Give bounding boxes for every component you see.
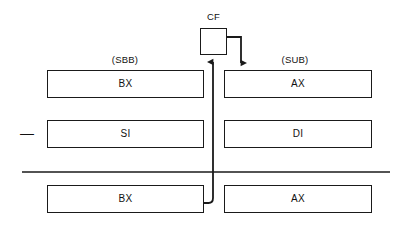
register-box-ax-high: AX (224, 70, 372, 98)
carry-flag-title: CF (200, 12, 227, 22)
register-label: SI (120, 129, 130, 139)
carry-flag-box (200, 28, 227, 55)
register-label: BX (119, 194, 133, 204)
register-box-si: SI (47, 120, 204, 148)
register-box-di: DI (224, 120, 372, 148)
operation-label-sbb: (SBB) (100, 55, 150, 65)
register-box-ax-result: AX (224, 185, 372, 213)
operation-label-sub: (SUB) (270, 55, 320, 65)
register-label: AX (291, 194, 305, 204)
register-label: AX (291, 79, 305, 89)
borrow-out-connector (204, 62, 213, 203)
register-label: BX (119, 79, 133, 89)
register-diagram: CF (SBB) (SUB) — BX AX SI DI BX AX (0, 0, 410, 227)
register-box-bx-result: BX (47, 185, 204, 213)
carry-in-connector (227, 37, 241, 63)
register-box-bx-high: BX (47, 70, 204, 98)
minus-operator: — (20, 126, 34, 140)
register-label: DI (293, 129, 304, 139)
